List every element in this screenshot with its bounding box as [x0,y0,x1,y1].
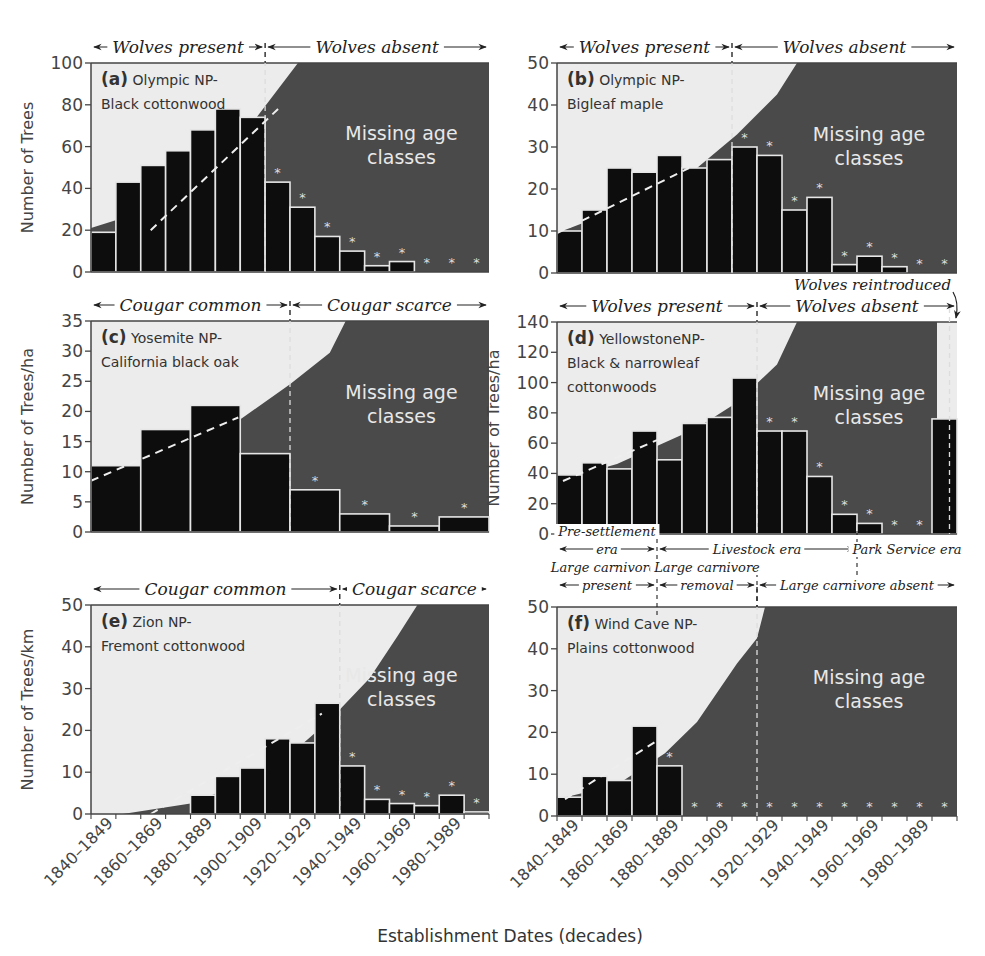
asterisk-marker: * [741,799,748,814]
panel-b: *********01020304050(b) Olympic NP-Bigle… [527,37,957,283]
panel-subtitle: Black cottonwood [101,96,225,112]
asterisk-marker: * [866,506,873,521]
asterisk-marker: * [766,799,773,814]
y-axis-title: Number of Trees/km [18,629,37,791]
bar [682,168,707,273]
asterisk-marker: * [473,795,480,810]
asterisk-marker: * [841,497,848,512]
panel-title: (e) Zion NP- [101,611,192,631]
y-tick-label: 100 [517,373,549,393]
bar [166,151,191,272]
missing-label: Missing age [813,382,925,404]
era-label: Large carnivore absent [779,578,935,593]
bar [882,267,907,273]
era-label-right: Wolves absent [783,37,907,57]
panel-title: (f) Wind Cave NP- [567,613,697,633]
asterisk-marker: * [448,255,455,270]
y-tick-label: 20 [527,722,549,742]
era-label: Park Service era [851,542,961,557]
era-label-right: Cougar scarce [352,579,477,599]
bar [857,523,882,534]
reintroduced-annotation: Wolves reintroduced [794,276,951,294]
bar [832,265,857,273]
missing-label: Missing age [813,666,925,688]
y-tick-label: 30 [527,137,549,157]
y-tick-label: 30 [527,681,549,701]
era-label-left: Wolves present [112,37,244,57]
panel-subtitle: California black oak [101,354,240,370]
bar [757,155,782,273]
era-label: present [582,578,633,593]
asterisk-marker: * [841,799,848,814]
panel-title: (d) YellowstoneNP- [567,328,705,348]
asterisk-marker: * [666,749,673,764]
asterisk-marker: * [741,130,748,145]
bar [240,454,290,532]
asterisk-marker: * [916,799,923,814]
asterisk-marker: * [399,787,406,802]
bar [390,526,440,532]
asterisk-marker: * [691,799,698,814]
missing-label: Missing age [345,381,457,403]
asterisk-marker: * [374,782,381,797]
bar [340,251,365,272]
era-label-right: Wolves absent [795,296,919,316]
bar [365,266,390,272]
panel-subtitle: Fremont cottonwood [101,638,245,654]
era-label-right: Wolves absent [315,37,439,57]
annotation-arrow [953,292,957,318]
panel-subtitle: Black & narrowleaf [567,355,700,371]
era-label: Large carnivores [550,560,664,575]
y-tick-label: 50 [61,595,83,615]
asterisk-marker: * [399,245,406,260]
y-tick-label: 25 [61,371,83,391]
bar [582,776,607,816]
bar [340,766,365,814]
missing-label: Missing age [345,122,457,144]
asterisk-marker: * [361,497,368,512]
missing-label: classes [367,688,436,710]
bar [290,490,340,532]
panel-e: ******01020304050Number of Trees/km(e) Z… [18,579,489,890]
bar [290,207,315,272]
asterisk-marker: * [791,414,798,429]
asterisk-marker: * [766,138,773,153]
bar [757,431,782,534]
bar [782,431,807,534]
asterisk-marker: * [324,219,331,234]
asterisk-marker: * [891,517,898,532]
bar [215,776,240,814]
era-label: era [596,542,618,557]
bar [832,514,857,534]
asterisk-marker: * [866,799,873,814]
panel-title: (c) Yosemite NP- [101,327,222,347]
asterisk-marker: * [816,180,823,195]
missing-label: classes [835,147,904,169]
y-tick-label: 40 [527,463,549,483]
y-tick-label: 20 [527,179,549,199]
asterisk-marker: * [424,789,431,804]
asterisk-marker: * [461,500,468,515]
y-tick-label: 60 [61,137,83,157]
y-tick-label: 0 [538,263,549,283]
era-label: Livestock era [712,542,802,557]
bar [732,378,757,534]
missing-label: classes [835,690,904,712]
asterisk-marker: * [816,459,823,474]
y-tick-label: 80 [61,95,83,115]
era-label: removal [680,578,733,593]
y-tick-label: 20 [61,220,83,240]
y-tick-label: 100 [51,53,83,73]
era-label-right: Cougar scarce [327,295,452,315]
bar [390,804,415,814]
missing-label: classes [835,406,904,428]
y-tick-label: 20 [527,494,549,514]
bar [191,405,241,532]
y-tick-label: 140 [517,312,549,332]
bar [657,766,682,816]
panel-c: ****05101520253035Number of Trees/ha(c) … [18,295,489,542]
panel-subtitle: Bigleaf maple [567,96,663,112]
missing-label: classes [367,405,436,427]
bar [315,703,340,814]
bar [632,172,657,273]
